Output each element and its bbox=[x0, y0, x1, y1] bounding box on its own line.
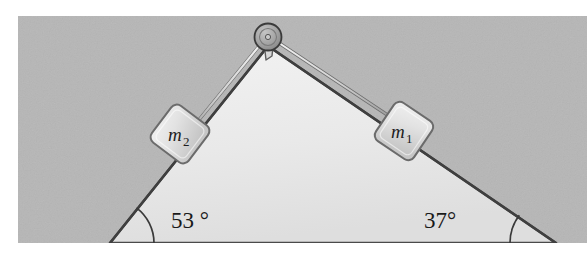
block-m2-subscript: 2 bbox=[183, 134, 190, 149]
angle-label-37: 37° bbox=[424, 208, 456, 233]
physics-figure-inclined-plane: m 2 m 1 53 ° 37° bbox=[0, 0, 587, 255]
block-m2-label: m bbox=[168, 124, 182, 145]
diagram-canvas: m 2 m 1 53 ° 37° bbox=[0, 0, 587, 255]
angle-label-53: 53 ° bbox=[171, 208, 209, 233]
block-m1-subscript: 1 bbox=[406, 131, 413, 146]
pulley-axle bbox=[265, 34, 270, 39]
block-m1-label: m bbox=[391, 121, 405, 142]
